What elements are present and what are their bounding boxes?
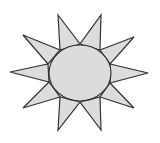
ray-bottom-left	[58, 97, 80, 130]
figure-canvas	[0, 0, 160, 143]
sun-icon	[0, 0, 160, 143]
ray-bottom-right	[80, 97, 101, 130]
ray-left	[10, 64, 49, 82]
sun-disc	[49, 45, 111, 101]
ray-right	[110, 64, 148, 83]
